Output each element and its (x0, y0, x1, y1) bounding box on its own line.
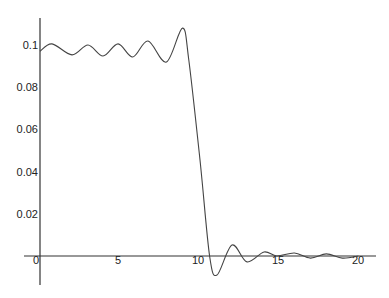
x-tick-label: 0 (33, 254, 39, 266)
x-tick-label: 10 (192, 254, 204, 266)
y-tick-label: 0.1 (23, 39, 38, 51)
line-chart: 0.020.040.060.080.1 05101520 (0, 0, 389, 298)
data-series-curve (40, 28, 358, 275)
y-tick-label: 0.02 (17, 208, 38, 220)
y-tick-label: 0.06 (17, 123, 38, 135)
y-tick-label: 0.04 (17, 166, 38, 178)
y-tick-label: 0.08 (17, 81, 38, 93)
x-tick-label: 5 (115, 254, 121, 266)
y-tick-labels: 0.020.040.060.080.1 (17, 39, 38, 220)
